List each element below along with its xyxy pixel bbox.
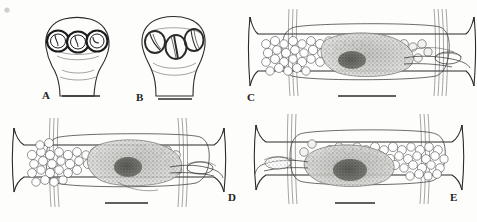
- bothridium-a-3: [87, 31, 108, 52]
- figure-canvas: A B: [0, 0, 477, 222]
- bothridium-a-1: [47, 31, 69, 52]
- scan-artifact: [4, 7, 9, 12]
- figure-plate: A B: [0, 0, 477, 222]
- panel-label-a: A: [42, 89, 50, 101]
- panel-label-c: C: [247, 91, 255, 103]
- panel-label-b: B: [136, 91, 144, 103]
- ovary-mass-e: [304, 145, 394, 187]
- panel-label-e: E: [450, 191, 458, 203]
- panel-label-d: D: [228, 191, 236, 203]
